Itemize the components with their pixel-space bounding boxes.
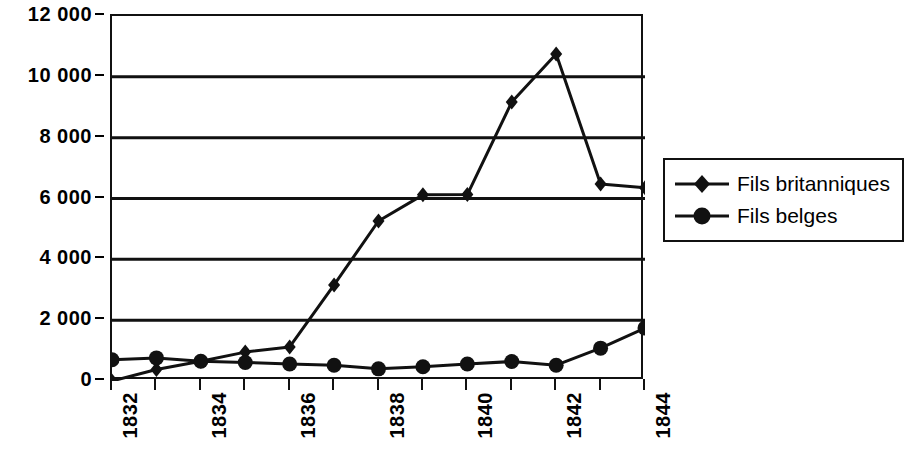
y-axis-tick-label: 12 000 [28, 3, 92, 26]
x-axis-tick-label: 1834 [208, 392, 231, 439]
x-axis-tick-label: 1832 [119, 392, 142, 439]
data-point-circle [149, 350, 164, 365]
x-axis-tick-mark [199, 379, 201, 390]
x-axis-tick-mark [643, 379, 645, 390]
data-point-circle [504, 354, 519, 369]
y-axis-tick-label: 10 000 [28, 63, 92, 86]
y-axis-tick-mark [95, 378, 104, 380]
x-axis-tick-mark [554, 379, 556, 390]
y-axis-tick-mark [95, 256, 104, 258]
legend-item-0: Fils britanniques [673, 168, 890, 200]
data-point-diamond [417, 187, 429, 202]
y-axis: 02 0004 0006 0008 00010 00012 000 [0, 0, 104, 450]
x-axis-tick-mark [599, 379, 601, 390]
data-point-circle [460, 356, 475, 371]
data-point-circle [593, 341, 608, 356]
x-axis-tick-mark [510, 379, 512, 390]
data-point-circle [193, 354, 208, 369]
data-point-diamond [595, 176, 607, 191]
data-point-circle [549, 358, 564, 373]
x-axis-tick-label: 1842 [563, 392, 586, 439]
x-axis-tick-mark [288, 379, 290, 390]
series-layer [112, 47, 645, 381]
x-axis-tick-mark [154, 379, 156, 390]
data-point-circle [638, 321, 646, 336]
x-axis-tick-mark [110, 379, 112, 390]
y-axis-tick-mark [95, 13, 104, 15]
legend-label-britanniques: Fils britanniques [737, 172, 890, 196]
plot-area [110, 14, 643, 379]
x-axis-tick-mark [377, 379, 379, 390]
data-point-circle [415, 359, 430, 374]
x-axis-tick-mark [243, 379, 245, 390]
x-axis-tick-label: 1844 [652, 392, 675, 439]
plot-svg [112, 16, 645, 381]
data-point-circle [112, 352, 120, 367]
x-axis-tick-mark [465, 379, 467, 390]
diamond-marker-icon [673, 173, 731, 195]
x-axis-tick-label: 1836 [297, 392, 320, 439]
chart-legend: Fils britanniques Fils belges [663, 158, 904, 242]
y-axis-tick-label: 2 000 [39, 307, 92, 330]
x-axis-tick-label: 1838 [386, 392, 409, 439]
x-axis-ticks [110, 379, 643, 391]
y-axis-tick-mark [95, 135, 104, 137]
legend-label-belges: Fils belges [737, 204, 837, 228]
data-point-circle [282, 356, 297, 371]
x-axis-tick-mark [421, 379, 423, 390]
legend-item-1: Fils belges [673, 200, 890, 232]
data-point-circle [327, 358, 342, 373]
y-axis-tick-label: 4 000 [39, 246, 92, 269]
y-axis-tick-mark [95, 74, 104, 76]
y-axis-tick-label: 0 [80, 368, 92, 391]
y-axis-tick-mark [95, 196, 104, 198]
x-axis: 1832183418361838184018421844 [110, 392, 643, 450]
data-point-diamond [639, 180, 645, 195]
circle-marker-icon [673, 205, 731, 227]
data-point-circle [238, 355, 253, 370]
y-axis-tick-label: 6 000 [39, 185, 92, 208]
data-point-circle [371, 361, 386, 376]
x-axis-tick-label: 1840 [474, 392, 497, 439]
y-axis-tick-label: 8 000 [39, 124, 92, 147]
x-axis-tick-mark [332, 379, 334, 390]
y-axis-tick-mark [95, 317, 104, 319]
gridlines [112, 77, 645, 320]
